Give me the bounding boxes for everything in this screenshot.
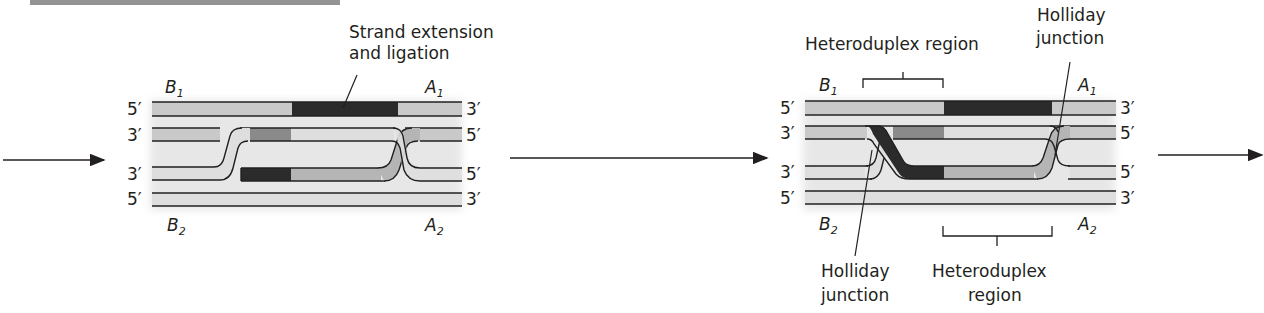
end-label: 5′ [780, 188, 795, 208]
label-b1: B1 [819, 75, 838, 98]
end-label: 3′ [1120, 188, 1135, 208]
heteroduplex-bracket-top [863, 72, 943, 88]
end-label: 5′ [127, 99, 142, 119]
heteroduplex-bracket-bottom [943, 226, 1052, 246]
label-b1: B1 [165, 77, 184, 100]
end-label: 5′ [1120, 123, 1135, 143]
callout-holliday-bottom-2: junction [820, 285, 889, 305]
label-b2: B2 [819, 214, 838, 237]
label-a2: A2 [1077, 214, 1097, 237]
callout-strand-extension: Strand extension [349, 22, 494, 42]
end-label: 3′ [127, 164, 142, 184]
end-label: 5′ [780, 98, 795, 118]
end-label: 3′ [1120, 98, 1135, 118]
callout-holliday-top-2: junction [1035, 28, 1104, 48]
callout-heteroduplex-bottom-2: region [968, 285, 1022, 305]
end-label: 5′ [466, 164, 481, 184]
label-a1: A1 [424, 77, 444, 100]
callout-holliday-bottom-1: Holliday [821, 261, 890, 281]
callout-and-ligation: and ligation [349, 43, 450, 63]
end-label: 3′ [127, 125, 142, 145]
panel-2-holliday-junctions [803, 62, 1116, 256]
callout-holliday-top-1: Holliday [1037, 5, 1106, 25]
end-label: 5′ [1120, 162, 1135, 182]
end-label: 5′ [127, 189, 142, 209]
label-a1: A1 [1077, 75, 1097, 98]
callout-heteroduplex-bottom-1: Heteroduplex [932, 261, 1047, 281]
label-a2: A2 [424, 215, 444, 238]
panel-1-strand-extension [150, 75, 462, 210]
label-b2: B2 [167, 215, 186, 238]
end-label: 3′ [466, 99, 481, 119]
end-label: 3′ [466, 189, 481, 209]
end-label: 5′ [466, 125, 481, 145]
recombination-diagram: Strand extension and ligation B1 A1 B2 A… [0, 0, 1264, 313]
end-label: 3′ [780, 162, 795, 182]
callout-heteroduplex-region-top: Heteroduplex region [805, 34, 979, 54]
end-label: 3′ [780, 123, 795, 143]
cut-off-header [30, 0, 340, 5]
